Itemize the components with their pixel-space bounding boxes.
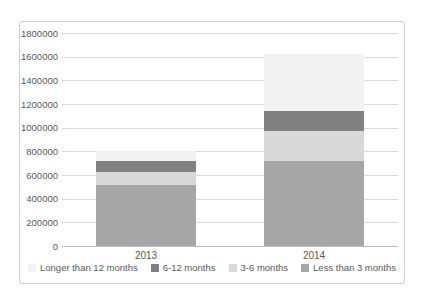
bar-segment-longer-than-12-months-2013 [96,151,196,160]
x-axis-labels: 20132014 [62,250,398,261]
y-axis-tick-label: 200000 [20,217,58,228]
y-axis-tick-label: 1600000 [20,51,58,62]
legend-label: Longer than 12 months [40,262,138,273]
legend-swatch-icon [301,264,309,272]
bar-segment-6-12-months-2013 [96,161,196,172]
legend-item-longer-than-12-months: Longer than 12 months [28,262,138,273]
legend-swatch-icon [151,264,159,272]
stacked-bar-2013 [96,151,196,246]
x-axis-category-label: 2013 [62,250,230,261]
y-axis-tick-label: 1400000 [20,75,58,86]
y-axis-labels: 0200000400000600000800000100000012000001… [20,33,58,246]
bar-segment-longer-than-12-months-2014 [264,54,364,111]
chart-page: 0200000400000600000800000100000012000001… [0,0,421,297]
y-axis-tick-label: 800000 [20,146,58,157]
gridline [62,33,398,34]
legend-item-less-than-3-months: Less than 3 months [301,262,396,273]
x-axis-line [62,246,398,247]
y-axis-tick-label: 600000 [20,170,58,181]
x-axis-category-label: 2014 [230,250,398,261]
y-axis-tick-label: 1200000 [20,99,58,110]
bar-segment-3-6-months-2014 [264,131,364,161]
legend-label: 3-6 months [241,262,289,273]
y-axis-tick-label: 1000000 [20,122,58,133]
bar-segment-6-12-months-2014 [264,111,364,131]
bar-segment-less-than-3-months-2014 [264,161,364,246]
stacked-bar-2014 [264,54,364,246]
bar-segment-3-6-months-2013 [96,172,196,185]
legend-swatch-icon [28,264,36,272]
legend-label: 6-12 months [163,262,216,273]
legend-item-6-12-months: 6-12 months [151,262,216,273]
y-axis-tick-label: 400000 [20,193,58,204]
legend-swatch-icon [229,264,237,272]
bar-segment-less-than-3-months-2013 [96,185,196,246]
chart-frame: 0200000400000600000800000100000012000001… [19,21,405,284]
legend-label: Less than 3 months [313,262,396,273]
legend-item-3-6-months: 3-6 months [229,262,289,273]
y-axis-tick-label: 1800000 [20,28,58,39]
legend: Longer than 12 months6-12 months3-6 mont… [20,262,404,273]
plot-area [62,33,398,246]
y-axis-tick-label: 0 [20,241,58,252]
